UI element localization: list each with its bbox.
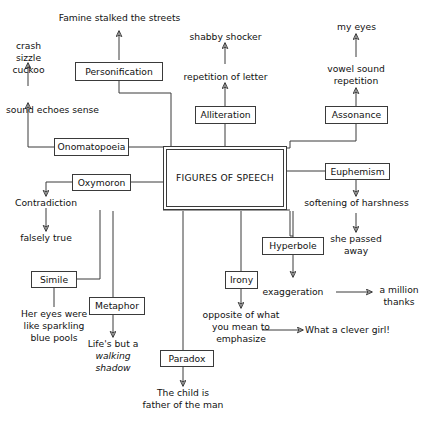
node-simile[interactable]: Simile [31, 271, 77, 288]
figures-of-speech-diagram: FIGURES OF SPEECH Personification Onomat… [0, 0, 427, 428]
node-alliteration[interactable]: Alliteration [195, 106, 256, 124]
label-she-passed-away: she passed away [322, 233, 390, 257]
node-irony[interactable]: Irony [225, 271, 258, 289]
node-label: Personification [85, 67, 153, 77]
node-label: Simile [40, 275, 68, 285]
node-euphemism[interactable]: Euphemism [325, 163, 390, 180]
node-label: Hyperbole [269, 241, 316, 251]
node-oxymoron[interactable]: Oxymoron [72, 174, 131, 191]
label-crash-sizzle-cuckoo: crash sizzle cuckoo [0, 40, 57, 75]
node-label: Paradox [169, 354, 206, 364]
label-a-million-thanks: a million thanks [371, 284, 427, 308]
label-repetition-of-letter: repetition of letter [170, 71, 281, 83]
label-exaggeration: exaggeration [249, 286, 337, 298]
label-falsely-true: falsely true [12, 232, 80, 244]
label-vowel-sound-repetition: vowel sound repetition [312, 63, 400, 87]
label-softening-of-harshness: softening of harshness [293, 197, 420, 209]
node-hyperbole[interactable]: Hyperbole [262, 237, 324, 255]
node-metaphor[interactable]: Metaphor [89, 297, 145, 315]
center-node-figures-of-speech[interactable]: FIGURES OF SPEECH [163, 146, 287, 210]
node-assonance[interactable]: Assonance [325, 106, 388, 124]
label-shabby-shocker: shabby shocker [178, 31, 273, 43]
node-label: Oxymoron [78, 178, 126, 188]
node-label: Alliteration [200, 110, 250, 120]
label-the-child-is-father: The child is father of the man [128, 387, 238, 411]
label-lifes-but-a: Life's but a [75, 338, 151, 350]
label-walking-shadow: walking shadow [75, 350, 151, 374]
node-onomatopoeia[interactable]: Onomatopoeia [54, 138, 129, 156]
center-node-label: FIGURES OF SPEECH [166, 149, 284, 207]
label-what-a-clever-girl: What a clever girl! [305, 324, 423, 336]
label-sound-echoes-sense: sound echoes sense [0, 104, 105, 116]
node-label: Euphemism [330, 167, 384, 177]
node-label: Onomatopoeia [58, 142, 126, 152]
label-opposite-of-what: opposite of what you mean to emphasize [186, 309, 296, 344]
node-paradox[interactable]: Paradox [160, 350, 214, 367]
node-label: Metaphor [95, 301, 139, 311]
label-contradiction: Contradiction [5, 197, 87, 209]
label-famine-stalked: Famine stalked the streets [47, 12, 192, 24]
node-label: Irony [230, 275, 253, 285]
node-personification[interactable]: Personification [75, 62, 163, 81]
label-my-eyes: my eyes [325, 21, 388, 33]
node-label: Assonance [332, 110, 381, 120]
